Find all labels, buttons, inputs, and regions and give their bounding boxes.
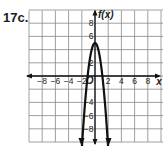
x-tick-label: 6 <box>132 76 137 86</box>
x-tick-label: 8 <box>145 76 150 86</box>
x-tick-label: −6 <box>51 76 61 86</box>
x-tick-label: 2 <box>106 76 111 86</box>
y-tick-label: 8 <box>89 18 94 28</box>
y-tick-label: 6 <box>89 31 94 41</box>
x-axis-label: x <box>155 76 162 87</box>
y-tick-label: −8 <box>84 124 94 134</box>
x-tick-label: −4 <box>64 76 74 86</box>
y-axis-label: f(x) <box>98 9 114 20</box>
x-tick-label: −8 <box>37 76 47 86</box>
x-tick-label: 4 <box>119 76 124 86</box>
parabola-graph: −8−6−4−22468862−4−6−8Oxf(x) <box>0 0 163 146</box>
